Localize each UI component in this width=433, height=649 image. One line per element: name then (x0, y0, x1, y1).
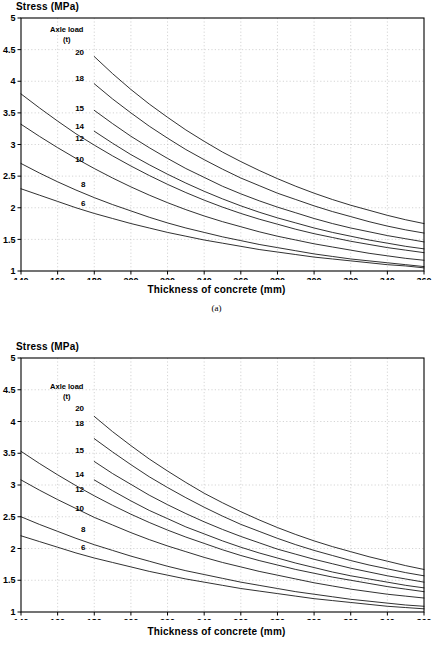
y-tick-label: 1 (10, 607, 15, 617)
x-axis-title-b: Thickness of concrete (mm) (0, 626, 433, 637)
y-tick-label: 2 (10, 544, 15, 554)
x-tick-label: 180 (87, 617, 102, 620)
y-tick-label: 4 (10, 417, 15, 427)
panel-label-a: (a) (0, 303, 433, 313)
x-tick-label: 260 (233, 276, 248, 280)
y-tick-label: 2.5 (3, 171, 16, 181)
x-tick-label: 160 (50, 276, 65, 280)
x-tick-label: 140 (13, 617, 28, 620)
x-tick-label: 300 (307, 276, 322, 280)
y-tick-label: 4 (10, 76, 15, 86)
x-tick-label: 360 (416, 617, 431, 620)
legend-value-12t: 12 (75, 485, 84, 494)
x-tick-label: 200 (123, 617, 138, 620)
legend-title-line1: Axle load (50, 382, 84, 391)
legend-value-15t: 15 (75, 446, 84, 455)
y-tick-label: 4.5 (3, 45, 16, 55)
x-tick-label: 140 (13, 276, 28, 280)
y-tick-label: 3.5 (3, 108, 16, 118)
y-tick-label: 5 (10, 353, 15, 363)
legend-value-14t: 14 (75, 122, 84, 131)
curve-18t (94, 84, 424, 233)
y-tick-label: 2.5 (3, 512, 16, 522)
y-tick-label: 4.5 (3, 385, 16, 395)
chart-plot-a: 11.522.533.544.5514016018020022024026028… (0, 0, 433, 280)
legend-title-line2: (t) (63, 35, 71, 44)
curve-15t (94, 462, 424, 583)
curve-14t (94, 131, 424, 249)
y-tick-label: 3.5 (3, 448, 16, 458)
x-tick-label: 160 (50, 617, 65, 620)
x-tick-label: 260 (233, 617, 248, 620)
x-tick-label: 220 (160, 276, 175, 280)
legend-value-14t: 14 (75, 470, 84, 479)
x-tick-label: 240 (197, 617, 212, 620)
y-tick-label: 2 (10, 203, 15, 213)
x-tick-label: 280 (270, 617, 285, 620)
chart-plot-b: 11.522.533.544.5514016018020022024026028… (0, 320, 433, 620)
legend-value-8t: 8 (81, 525, 86, 534)
legend-value-15t: 15 (75, 104, 84, 113)
legend-value-18t: 18 (75, 419, 84, 428)
figure-b: Stress (MPa) 11.522.533.544.551401601802… (0, 320, 433, 649)
x-tick-label: 240 (197, 276, 212, 280)
y-tick-label: 3 (10, 480, 15, 490)
x-tick-label: 340 (380, 276, 395, 280)
legend-value-10t: 10 (75, 155, 84, 164)
curve-20t (94, 57, 424, 224)
figure-a: Stress (MPa) 11.522.533.544.551401601802… (0, 0, 433, 320)
x-tick-label: 200 (123, 276, 138, 280)
x-tick-label: 320 (343, 617, 358, 620)
x-tick-label: 320 (343, 276, 358, 280)
x-tick-label: 180 (87, 276, 102, 280)
legend-value-18t: 18 (75, 74, 84, 83)
legend-value-8t: 8 (81, 180, 86, 189)
x-tick-label: 340 (380, 617, 395, 620)
x-axis-title-a: Thickness of concrete (mm) (0, 284, 433, 295)
curve-20t (94, 416, 424, 569)
x-tick-label: 300 (307, 617, 322, 620)
y-tick-label: 1 (10, 266, 15, 276)
legend-value-20t: 20 (75, 404, 84, 413)
legend-value-6t: 6 (81, 199, 86, 208)
legend-value-12t: 12 (75, 134, 84, 143)
curve-12t (21, 94, 424, 253)
legend-value-20t: 20 (75, 48, 84, 57)
legend: Axle load(t)20181514121086 (50, 382, 86, 552)
x-tick-label: 360 (416, 276, 431, 280)
legend-title-line2: (t) (63, 392, 71, 401)
x-tick-label: 280 (270, 276, 285, 280)
x-tick-label: 220 (160, 617, 175, 620)
y-tick-label: 3 (10, 140, 15, 150)
legend-value-6t: 6 (81, 543, 86, 552)
y-tick-label: 1.5 (3, 575, 16, 585)
legend-title-line1: Axle load (50, 25, 84, 34)
y-tick-label: 1.5 (3, 235, 16, 245)
y-tick-label: 5 (10, 13, 15, 23)
legend-value-10t: 10 (75, 504, 84, 513)
